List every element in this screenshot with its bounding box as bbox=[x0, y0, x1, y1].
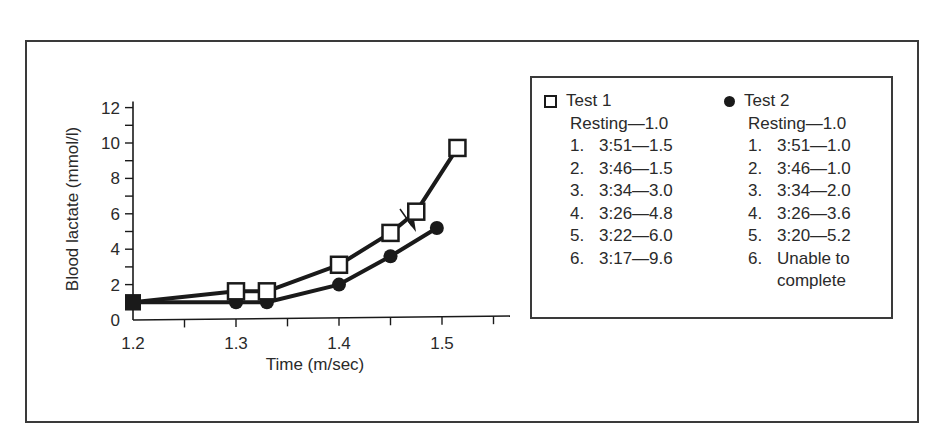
legend-row: 2.3:46—1.5 bbox=[544, 158, 673, 181]
chart-axes: 0246810121.21.31.41.5 bbox=[101, 99, 510, 353]
legend-test1: Test 1 Resting—1.0 1.3:51—1.5 2.3:46—1.5… bbox=[544, 90, 673, 270]
legend-row: 6.3:17—9.6 bbox=[544, 248, 673, 271]
legend-row: 5.3:22—6.0 bbox=[544, 225, 673, 248]
legend-row: 4.3:26—3.6 bbox=[722, 203, 851, 226]
x-tick-label: 1.5 bbox=[430, 334, 454, 353]
legend-row-continuation: complete bbox=[722, 270, 851, 293]
circle-marker bbox=[384, 249, 398, 263]
square-marker bbox=[383, 225, 399, 241]
legend-row: 3.3:34—3.0 bbox=[544, 180, 673, 203]
circle-marker bbox=[332, 278, 346, 292]
y-tick-label: 8 bbox=[111, 169, 120, 188]
y-tick-label: 10 bbox=[101, 134, 120, 153]
y-axis-label: Blood lactate (mmol/l) bbox=[63, 127, 82, 291]
start-point-marker bbox=[125, 294, 141, 310]
square-marker bbox=[259, 283, 275, 299]
chart-legend: Test 1 Resting—1.0 1.3:51—1.5 2.3:46—1.5… bbox=[530, 76, 893, 319]
x-axis-label: Time (m/sec) bbox=[266, 355, 365, 374]
x-tick-label: 1.4 bbox=[327, 334, 351, 353]
legend-row: 1.3:51—1.0 bbox=[722, 135, 851, 158]
legend-row: 3.3:34—2.0 bbox=[722, 180, 851, 203]
x-tick-label: 1.2 bbox=[121, 334, 145, 353]
square-marker bbox=[331, 257, 347, 273]
y-tick-label: 4 bbox=[111, 240, 120, 259]
legend-test2-label: Test 2 bbox=[744, 90, 789, 113]
square-marker bbox=[449, 140, 465, 156]
legend-test1-label: Test 1 bbox=[566, 90, 611, 113]
legend-row: 4.3:26—4.8 bbox=[544, 203, 673, 226]
legend-row: 6.Unable to bbox=[722, 248, 851, 271]
x-tick-label: 1.3 bbox=[224, 334, 248, 353]
legend-test2-resting: Resting—1.0 bbox=[722, 113, 851, 136]
filled-circle-marker-icon bbox=[724, 96, 735, 107]
series-line-test-1 bbox=[133, 148, 457, 302]
y-tick-label: 2 bbox=[111, 276, 120, 295]
legend-row: 5.3:20—5.2 bbox=[722, 225, 851, 248]
legend-row: 2.3:46—1.0 bbox=[722, 158, 851, 181]
y-tick-label: 6 bbox=[111, 205, 120, 224]
x-axis-line bbox=[133, 316, 510, 320]
square-marker bbox=[228, 283, 244, 299]
y-tick-label: 12 bbox=[101, 99, 120, 118]
y-tick-label: 0 bbox=[111, 311, 120, 330]
circle-marker bbox=[430, 221, 444, 235]
legend-row: 1.3:51—1.5 bbox=[544, 135, 673, 158]
open-square-marker-icon bbox=[544, 95, 557, 108]
legend-test2: Test 2 Resting—1.0 1.3:51—1.0 2.3:46—1.0… bbox=[722, 90, 851, 293]
square-marker bbox=[408, 204, 424, 220]
legend-test1-resting: Resting—1.0 bbox=[544, 113, 673, 136]
chart-series bbox=[125, 140, 465, 310]
